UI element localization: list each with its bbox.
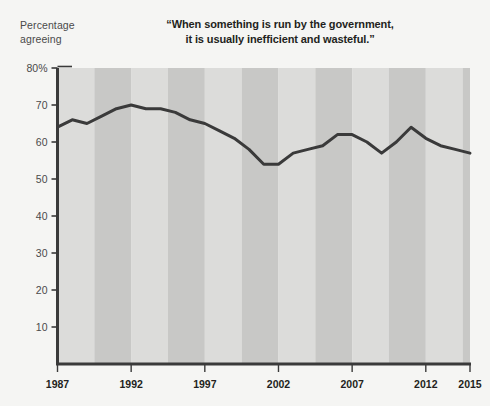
x-axis-tick-label: 2012: [414, 378, 438, 390]
shading-band: [58, 68, 95, 364]
y-axis-tick-label: 20: [36, 284, 48, 296]
shading-band: [352, 68, 389, 364]
shading-band: [463, 68, 470, 364]
shading-band: [94, 68, 131, 364]
y-axis-tick-label: 10: [36, 321, 48, 333]
x-axis-tick-label: 1997: [193, 378, 217, 390]
x-axis-tick-label: 2002: [267, 378, 291, 390]
shading-band: [242, 68, 279, 364]
y-axis-tick-label: 40: [36, 210, 48, 222]
shading-band: [389, 68, 426, 364]
shading-band: [278, 68, 315, 364]
band-shading-group: [58, 68, 471, 364]
shading-band: [205, 68, 242, 364]
x-axis-group: 1987199219972002200720122015: [46, 364, 482, 390]
shading-band: [426, 68, 463, 364]
x-axis-tick-label: 1992: [119, 378, 143, 390]
y-axis-tick-label: 30: [36, 247, 48, 259]
x-axis-tick-label: 1987: [46, 378, 70, 390]
y-axis-tick-label: 50: [36, 173, 48, 185]
shading-band: [315, 68, 352, 364]
x-axis-tick-label: 2015: [458, 378, 482, 390]
chart-container: Percentage agreeing “When something is r…: [0, 0, 490, 406]
y-axis-tick-label: 60: [36, 136, 48, 148]
shading-band: [131, 68, 168, 364]
y-axis-tick-label: 70: [36, 99, 48, 111]
x-axis-tick-label: 2007: [340, 378, 364, 390]
y-axis-tick-label: 80%: [26, 62, 47, 74]
y-axis-group: 80%70605040302010: [26, 62, 57, 333]
line-chart-plot: 80%70605040302010 1987199219972002200720…: [0, 0, 490, 406]
